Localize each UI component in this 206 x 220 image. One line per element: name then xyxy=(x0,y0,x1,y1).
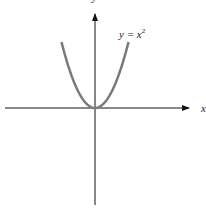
plot-area xyxy=(0,0,206,220)
y-axis-label: y xyxy=(92,0,97,3)
x-axis-label: x xyxy=(201,102,206,114)
curve-label: y = x2 xyxy=(119,27,145,40)
chart-figure: y x y = x2 xyxy=(0,0,206,220)
